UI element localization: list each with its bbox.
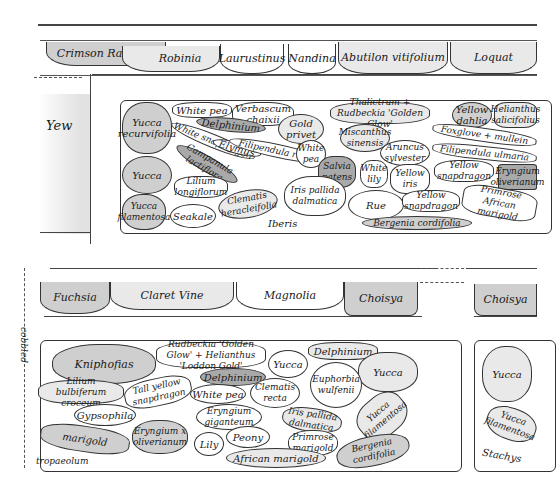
mid-border-bottom-line [44, 316, 422, 317]
plant-lilium-bulbiferum: Lilium bulbiferum croceum [38, 380, 124, 404]
mid-border-bottom-right [474, 316, 537, 317]
yew-bottom-line [40, 232, 90, 233]
path-edge-line [92, 74, 537, 75]
plant-thalictrum-rudbeckia: Thalictrum + Rudbeckia 'Golden Glow' [330, 102, 430, 124]
plant-lily: Lily [194, 432, 224, 456]
plant-white-pea-lower: White pea [190, 384, 246, 404]
path-dashed-line [34, 77, 82, 78]
top-wall-line [38, 24, 537, 26]
shrub-choisya-right: Choisya [474, 284, 537, 316]
cobbled-label: cobbled [19, 327, 29, 363]
plant-iberis: Iberis [268, 218, 297, 229]
plant-african-marigold: African marigold [226, 448, 326, 468]
shrub-choisya: Choisya [344, 282, 418, 316]
gap-dashed-bottom [420, 282, 464, 283]
plant-eryngium-oliverianum-lower: Eryngium x oliverianum [132, 420, 188, 454]
plant-helianthus: Helianthus salicifolius [494, 102, 537, 128]
plant-yucca-lower-right: Yucca [482, 346, 532, 402]
shrub-loquat: Loquat [450, 42, 537, 74]
plant-aruncus: Aruncus sylvester [380, 140, 430, 166]
plant-iris-pallida: Iris pallida dalmatica [284, 176, 346, 216]
top-border-top-line [40, 40, 537, 41]
mid-border-top-right [466, 268, 537, 269]
plant-yellow-snapdragon: Yellow snapdragon [434, 160, 494, 182]
plant-white-lily: White lily [360, 160, 388, 188]
plant-seakale: Seakale [170, 204, 216, 228]
shrub-laurustinus: Laurustinus [220, 44, 284, 74]
plant-clematis-recta: Clematis recta [250, 378, 300, 408]
shrub-fuchsia: Fuchsia [40, 282, 110, 314]
plant-bergenia: Bergenia cordifolia [362, 216, 472, 230]
mid-border-top-line-2 [160, 268, 437, 269]
shrub-robinia: Robinia [122, 46, 220, 72]
yew-area [38, 94, 90, 234]
shrub-abutilon: Abutilon vitifolium [338, 42, 448, 74]
shrub-nandina: Nandina [288, 44, 336, 74]
plant-tropaeolum: tropaeolum [36, 456, 88, 466]
gap-dashed-top [420, 268, 464, 269]
path-edge-vertical [90, 74, 91, 244]
plant-yellow-snapdragon-2: Yellow snapdragon [402, 190, 460, 212]
plant-gold-privet: Gold privet [278, 114, 324, 144]
yew-label: Yew [46, 118, 72, 133]
shrub-magnolia: Magnolia [236, 282, 344, 310]
left-dashed-edge [24, 268, 25, 468]
plant-euphorbia: Euphorbia wulfenii [310, 362, 362, 408]
plant-rudbeckia-helianthus: Rudbeckia 'Golden Glow' + Helianthus 'Lo… [156, 342, 266, 368]
plant-yucca-lower: Yucca [268, 350, 308, 378]
plant-lilium-longiflorum: Lilium longiflorum [174, 176, 228, 198]
shrub-claret-vine: Claret Vine [110, 282, 234, 310]
plant-yucca-recurvifolia: Yucca recurvifolia [122, 102, 172, 154]
mid-border-top-line [50, 268, 160, 269]
plant-peony: Peony [226, 426, 270, 448]
plant-yucca: Yucca [122, 156, 172, 194]
plant-gypsophila: Gypsophila [74, 404, 136, 426]
plant-yucca-filamentosa: Yucca filamentosa [122, 194, 166, 230]
plant-yucca-right: Yucca [358, 352, 418, 392]
